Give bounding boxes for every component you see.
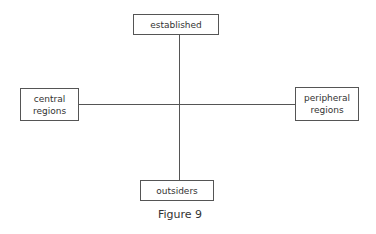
node-peripheral-regions-label: peripheral regions (304, 92, 350, 116)
vertical-axis-line (179, 35, 180, 180)
figure-caption: Figure 9 (0, 208, 360, 221)
node-peripheral-regions: peripheral regions (295, 87, 359, 121)
node-established: established (133, 14, 219, 35)
node-central-regions-label: central regions (33, 93, 66, 117)
node-established-label: established (150, 19, 202, 31)
node-outsiders: outsiders (140, 180, 214, 201)
node-outsiders-label: outsiders (156, 185, 198, 197)
horizontal-axis-line (79, 104, 295, 105)
node-central-regions: central regions (20, 88, 79, 121)
